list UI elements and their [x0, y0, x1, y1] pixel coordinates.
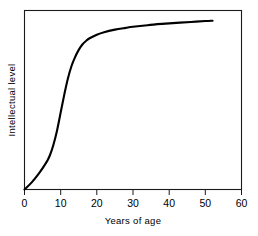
x-tick-label-30: 30 — [127, 197, 139, 209]
x-axis-label: Years of age — [105, 215, 162, 226]
x-tick-label-0: 0 — [22, 197, 28, 209]
x-tick-label-50: 50 — [199, 197, 211, 209]
intellectual-level-chart: 0 10 20 30 40 50 60 Years of age Intelle… — [0, 0, 258, 236]
x-tick-label-20: 20 — [91, 197, 103, 209]
x-tick-label-60: 60 — [236, 197, 248, 209]
x-tick-label-10: 10 — [55, 197, 67, 209]
y-axis-label: Intellectual level — [6, 64, 17, 137]
x-tick-label-40: 40 — [163, 197, 175, 209]
